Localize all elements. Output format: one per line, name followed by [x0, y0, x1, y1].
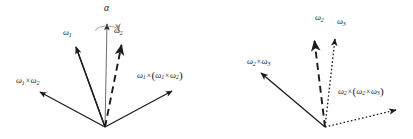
omega-2-label: ω2 — [114, 26, 123, 35]
omega-3-vector — [325, 39, 335, 127]
omega-1-label: ω1 — [63, 28, 72, 37]
omega-1-cross-omega-2-label: ω1×ω2 — [16, 76, 40, 85]
omega-1-cross-omega-1-cross-omega-2-vector — [105, 91, 172, 127]
omega-2-cross-omega-3-vector — [261, 73, 325, 127]
omega-2-label-right: ω2 — [315, 13, 324, 22]
vector-diagram-figure: α ω1 ω2 ω1×ω2 ω1×(ω1×ω2) ω2 ω3 ω2×ω3 ω2×… — [0, 0, 413, 139]
omega-1-cross-omega-2-vector — [40, 92, 105, 127]
omega-1-cross-omega-1-cross-omega-2-label: ω1×(ω1×ω2) — [137, 70, 183, 81]
alpha-axis-line — [105, 24, 107, 127]
omega-3-label: ω3 — [337, 17, 346, 26]
right-panel-group — [261, 39, 396, 127]
omega-2-vector-right — [315, 41, 326, 127]
omega-2-cross-omega-2-cross-omega-3-label: ω2×(ω2×ω3) — [338, 86, 384, 97]
omega-2-vector — [105, 45, 122, 127]
omega-2-cross-omega-2-cross-omega-3-vector — [325, 110, 396, 127]
omega-2-cross-omega-3-label: ω2×ω3 — [247, 57, 271, 66]
vector-diagram-canvas — [0, 0, 413, 139]
alpha-axis-label: α — [104, 3, 109, 13]
omega-1-vector-shaft — [76, 47, 105, 127]
